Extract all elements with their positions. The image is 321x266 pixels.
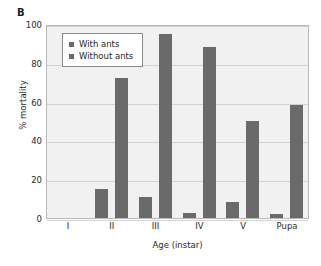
y-tick-label: 0	[16, 214, 42, 224]
x-tick-label: V	[240, 221, 246, 231]
bar	[95, 189, 108, 218]
bar	[270, 214, 283, 218]
y-tick-label: 20	[16, 175, 42, 185]
bar	[290, 105, 303, 218]
bar	[159, 34, 172, 218]
legend-entry-without-ants: Without ants	[69, 50, 133, 62]
y-tick-label: 100	[16, 20, 42, 30]
x-axis-title: Age (instar)	[46, 240, 309, 250]
bar	[115, 78, 128, 218]
bar	[203, 47, 216, 218]
bar-group	[222, 26, 266, 218]
legend-label: With ants	[79, 39, 119, 49]
x-tick-label: Pupa	[277, 221, 298, 231]
x-tick-label: III	[152, 221, 160, 231]
legend-label: Without ants	[79, 51, 133, 61]
x-axis-tick-labels: IIIIIIIVVPupa	[46, 221, 309, 237]
y-tick-label: 40	[16, 136, 42, 146]
x-tick-label: I	[67, 221, 70, 231]
x-tick-label: IV	[195, 221, 203, 231]
bar-group	[179, 26, 223, 218]
x-tick-label: II	[109, 221, 114, 231]
y-axis-tick-labels: 020406080100	[14, 25, 42, 219]
legend-swatch-icon	[69, 54, 74, 59]
bar	[139, 197, 152, 218]
bar	[246, 121, 259, 218]
bar-group	[266, 26, 310, 218]
panel-label: B	[17, 7, 25, 18]
bar	[183, 213, 196, 218]
y-tick-label: 60	[16, 98, 42, 108]
chart-legend: With ants Without ants	[62, 33, 143, 67]
legend-entry-with-ants: With ants	[69, 38, 133, 50]
figure-panel-b: B % mortality 020406080100 IIIIIIIVVPupa…	[0, 0, 321, 266]
y-tick-label: 80	[16, 59, 42, 69]
bar	[226, 202, 239, 218]
legend-swatch-icon	[69, 42, 74, 47]
